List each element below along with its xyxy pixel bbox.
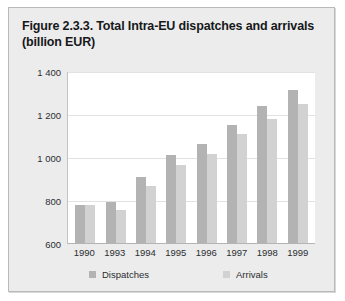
- x-axis-tick-label: 1993: [100, 247, 131, 258]
- bar-group: [100, 72, 130, 243]
- chart-plot-wrapper: [67, 72, 315, 244]
- legend-label-dispatches: Dispatches: [102, 269, 149, 280]
- legend-swatch-dispatches: [89, 271, 96, 278]
- x-axis: 19901993199419951996199719981999: [67, 247, 315, 258]
- bar-group: [161, 72, 191, 243]
- x-axis-tick-label: 1994: [130, 247, 161, 258]
- bar-group: [283, 72, 313, 243]
- y-axis-tick-label: 1 000: [37, 153, 61, 164]
- bar-dispatches-1993: [106, 202, 116, 243]
- bar-group: [252, 72, 282, 243]
- y-axis-tick-label: 1 200: [37, 110, 61, 121]
- legend-label-arrivals: Arrivals: [236, 269, 268, 280]
- bar-dispatches-1994: [136, 177, 146, 243]
- bar-dispatches-1995: [166, 155, 176, 243]
- bar-arrivals-1996: [207, 154, 217, 243]
- bar-arrivals-1997: [237, 134, 247, 243]
- bar-group: [192, 72, 222, 243]
- bar-arrivals-1994: [146, 186, 156, 243]
- bar-dispatches-1996: [197, 144, 207, 243]
- bar-arrivals-1999: [298, 104, 308, 243]
- bar-group: [131, 72, 161, 243]
- figure-card: Figure 2.3.3. Total Intra-EU dispatches …: [8, 7, 335, 292]
- y-axis-tick-label: 1 400: [37, 67, 61, 78]
- legend-item-arrivals: Arrivals: [223, 269, 268, 280]
- x-axis-tick-label: 1990: [69, 247, 100, 258]
- bar-arrivals-1993: [116, 210, 126, 243]
- bar-arrivals-1990: [85, 205, 95, 243]
- chart-legend: Dispatches Arrivals: [67, 269, 315, 280]
- plot-area: [67, 72, 315, 244]
- x-axis-tick-label: 1996: [191, 247, 222, 258]
- bar-dispatches-1990: [75, 205, 85, 243]
- x-axis-tick-label: 1998: [252, 247, 283, 258]
- x-axis-tick-label: 1997: [222, 247, 253, 258]
- y-axis: 6008001 0001 2001 400: [9, 72, 61, 244]
- y-axis-tick-label: 800: [45, 196, 61, 207]
- x-axis-tick-label: 1999: [283, 247, 314, 258]
- legend-swatch-arrivals: [223, 271, 230, 278]
- bar-dispatches-1999: [288, 90, 298, 243]
- bar-arrivals-1995: [176, 165, 186, 243]
- bar-dispatches-1997: [227, 125, 237, 243]
- y-axis-tick-label: 600: [45, 239, 61, 250]
- bars-layer: [68, 72, 315, 243]
- x-axis-tick-label: 1995: [161, 247, 192, 258]
- bar-group: [70, 72, 100, 243]
- bar-dispatches-1998: [257, 106, 267, 243]
- bar-arrivals-1998: [267, 119, 277, 243]
- legend-item-dispatches: Dispatches: [89, 269, 149, 280]
- bar-group: [222, 72, 252, 243]
- figure-title: Figure 2.3.3. Total Intra-EU dispatches …: [22, 19, 322, 50]
